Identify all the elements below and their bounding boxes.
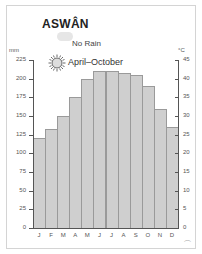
month-label: J (33, 232, 45, 238)
month-label: M (57, 232, 69, 238)
right-tick (175, 60, 179, 61)
right-tick-label: 15 (183, 168, 202, 174)
left-tick-label: 225 (6, 56, 26, 62)
left-tick-label: 150 (6, 112, 26, 118)
right-tick-label: 45 (183, 56, 202, 62)
left-axis-unit: mm (9, 47, 19, 53)
right-tick-label: 25 (183, 131, 202, 137)
cloud-icon (57, 32, 73, 41)
left-tick (29, 228, 33, 229)
right-axis-unit: °C (178, 47, 185, 53)
month-label: N (154, 232, 166, 238)
right-tick (175, 191, 179, 192)
left-tick-label: 75 (6, 168, 26, 174)
right-tick (175, 228, 179, 229)
left-axis (33, 60, 34, 228)
left-tick (29, 97, 33, 98)
month-label: J (93, 232, 105, 238)
corner-mark-icon: ⌒ (184, 238, 191, 248)
left-tick (29, 172, 33, 173)
right-tick (175, 79, 179, 80)
rain-label: No Rain (72, 39, 101, 48)
left-tick (29, 191, 33, 192)
left-tick-label: 100 (6, 149, 26, 155)
month-label: O (142, 232, 154, 238)
right-tick-label: 30 (183, 112, 202, 118)
left-tick (29, 60, 33, 61)
right-tick (175, 97, 179, 98)
sun-icon (48, 54, 66, 72)
left-tick-label: 25 (6, 205, 26, 211)
left-tick (29, 135, 33, 136)
sun-label: April–October (68, 57, 123, 67)
right-tick (175, 172, 179, 173)
month-label: J (106, 232, 118, 238)
right-tick-label: 0 (183, 224, 202, 230)
right-tick-label: 20 (183, 149, 202, 155)
right-tick-label: 35 (183, 93, 202, 99)
left-tick-label: 175 (6, 93, 26, 99)
month-label: D (166, 232, 178, 238)
month-label: S (130, 232, 142, 238)
left-tick-label: 200 (6, 75, 26, 81)
left-tick (29, 153, 33, 154)
left-tick (29, 79, 33, 80)
left-tick-label: 50 (6, 187, 26, 193)
right-axis (178, 60, 179, 228)
right-tick (175, 209, 179, 210)
left-tick (29, 209, 33, 210)
month-label: F (45, 232, 57, 238)
left-tick (29, 116, 33, 117)
left-tick-label: 0 (6, 224, 26, 230)
right-tick-label: 40 (183, 75, 202, 81)
left-tick-label: 125 (6, 131, 26, 137)
right-tick (175, 135, 179, 136)
right-tick-label: 5 (183, 205, 202, 211)
right-tick-label: 10 (183, 187, 202, 193)
month-label: M (81, 232, 93, 238)
month-label: A (69, 232, 81, 238)
chart-title: ASWÂN (42, 17, 89, 31)
month-label: A (118, 232, 130, 238)
right-tick (175, 116, 179, 117)
right-tick (175, 153, 179, 154)
x-axis (33, 228, 179, 229)
